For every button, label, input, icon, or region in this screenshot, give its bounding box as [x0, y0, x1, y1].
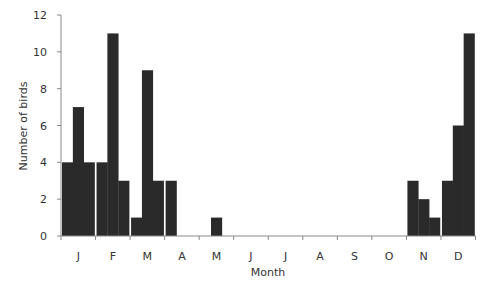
x-axis-ticks: JFMAMJJASOND — [61, 236, 476, 263]
x-tick-label: M — [143, 250, 153, 263]
x-tick-label: A — [316, 250, 324, 263]
x-tick-label: A — [178, 250, 186, 263]
bar — [97, 162, 108, 236]
bar — [142, 70, 153, 236]
bar — [131, 218, 142, 236]
bar — [166, 181, 177, 236]
bar — [211, 218, 222, 236]
bar — [84, 162, 95, 236]
x-tick-label: J — [248, 250, 252, 263]
y-tick-label: 0 — [40, 230, 47, 243]
x-tick-label: F — [110, 250, 116, 263]
bar — [73, 107, 84, 236]
bar — [153, 181, 164, 236]
x-tick-label: J — [76, 250, 80, 263]
plot-area — [62, 33, 475, 236]
x-tick-label: O — [385, 250, 394, 263]
y-axis-ticks: 024681012 — [33, 9, 61, 243]
bar — [429, 218, 440, 236]
x-tick-label: N — [420, 250, 428, 263]
bar — [453, 126, 464, 237]
bar — [62, 162, 73, 236]
x-tick-label: S — [351, 250, 358, 263]
bar — [442, 181, 453, 236]
x-tick-label: D — [454, 250, 462, 263]
y-axis-title: Number of birds — [17, 81, 30, 170]
y-tick-label: 6 — [40, 120, 47, 133]
bar — [464, 33, 475, 236]
y-tick-label: 10 — [33, 46, 47, 59]
bar — [107, 33, 118, 236]
x-axis-title: Month — [251, 266, 286, 279]
y-tick-label: 8 — [40, 83, 47, 96]
bar — [418, 199, 429, 236]
x-tick-label: J — [283, 250, 287, 263]
bird-count-chart: 024681012 JFMAMJJASOND Month Number of b… — [0, 0, 493, 294]
x-tick-label: M — [212, 250, 222, 263]
y-tick-label: 4 — [40, 156, 47, 169]
bar — [407, 181, 418, 236]
y-tick-label: 12 — [33, 9, 47, 22]
bar — [118, 181, 129, 236]
y-tick-label: 2 — [40, 193, 47, 206]
